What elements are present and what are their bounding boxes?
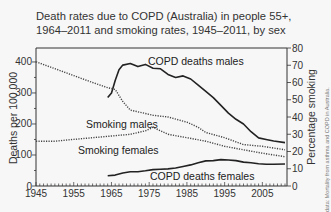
series-lines — [36, 62, 285, 176]
y2-tick-label: 80 — [292, 43, 304, 54]
series-smoking-males — [36, 62, 285, 150]
y2-tick-label: 30 — [292, 129, 304, 140]
source-note: data: Mortality from asthma and COPD in … — [324, 87, 330, 212]
y2-tick-label: 20 — [292, 146, 304, 157]
series-smoking-females — [36, 127, 285, 156]
chart: 1945195519651975198519952005010020030040… — [0, 0, 331, 212]
y2-tick-label: 10 — [292, 163, 304, 174]
y2-axis-label: Percentage smoking — [305, 69, 317, 165]
label-smoking-females: Smoking females — [78, 144, 159, 156]
y2-tick-label: 0 — [292, 181, 298, 192]
y-tick-label: 400 — [15, 56, 32, 67]
label-copd-females: COPD deaths females — [150, 170, 254, 182]
label-smoking-males: Smoking males — [86, 118, 158, 130]
y2-tick-label: 70 — [292, 60, 304, 71]
series-copd-deaths-males — [108, 64, 285, 143]
x-tick-label: 2005 — [251, 188, 274, 199]
label-copd-males: COPD deaths males — [148, 55, 244, 67]
x-tick-label: 1985 — [176, 188, 199, 199]
y-axis-label: Deaths per 100 000 — [7, 72, 19, 164]
y2-tick-label: 50 — [292, 94, 304, 105]
y2-tick-label: 40 — [292, 112, 304, 123]
x-tick-label: 1995 — [214, 188, 237, 199]
x-tick-label: 1965 — [100, 188, 123, 199]
x-tick-label: 1975 — [138, 188, 161, 199]
x-tick-label: 1955 — [63, 188, 86, 199]
y-tick-label: 0 — [26, 181, 32, 192]
y2-tick-label: 60 — [292, 77, 304, 88]
